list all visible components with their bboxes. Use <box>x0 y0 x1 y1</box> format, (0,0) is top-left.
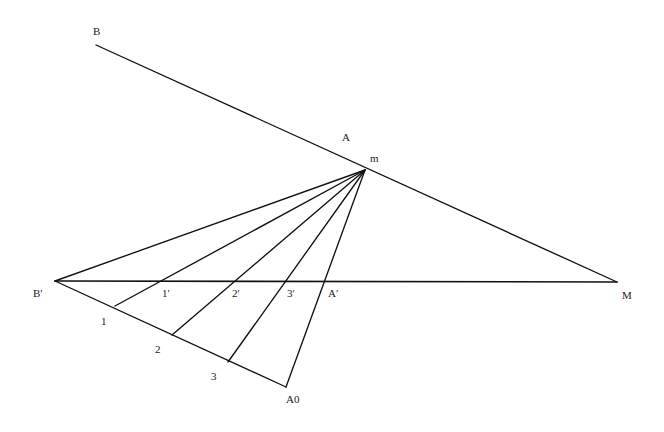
chain-Bprime-to-A0 <box>55 281 286 387</box>
point-label-B-prime: B′ <box>33 288 43 299</box>
diagram-svg <box>0 0 664 432</box>
point-label-A: A <box>342 132 350 143</box>
point-label-one-prime: 1′ <box>162 288 170 299</box>
ray-m-to-Bprime <box>55 170 365 281</box>
point-label-three-prime: 3′ <box>287 288 295 299</box>
ray-m-to-3 <box>228 170 365 362</box>
geometry-diagram-canvas: B A m B′ M 1′ 2′ 3′ A′ 1 2 3 A0 <box>0 0 664 432</box>
point-label-B: B <box>93 26 100 37</box>
ray-m-to-2 <box>172 170 365 335</box>
point-label-one: 1 <box>101 316 107 327</box>
point-label-A0: A0 <box>286 394 299 405</box>
point-label-M: M <box>622 290 632 301</box>
segment-group <box>55 45 617 387</box>
line-B-to-M <box>96 45 617 282</box>
ray-m-to-1 <box>115 170 365 306</box>
point-label-two-prime: 2′ <box>232 288 240 299</box>
baseline-Bprime-to-M <box>55 281 617 282</box>
point-label-A-prime: A′ <box>328 288 338 299</box>
point-label-m: m <box>370 153 379 164</box>
ray-m-to-A0 <box>286 170 365 387</box>
point-label-two: 2 <box>155 344 161 355</box>
point-label-three: 3 <box>211 371 217 382</box>
